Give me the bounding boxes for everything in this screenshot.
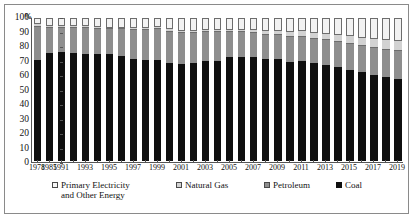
bar-segment-petroleum <box>82 28 89 54</box>
legend-petroleum[interactable]: Petroleum <box>264 180 310 190</box>
x-tick-label-2017: 2017 <box>365 164 381 172</box>
bar-segment-gas <box>394 40 401 52</box>
plot-wrapper <box>31 18 403 163</box>
bar-segment-coal <box>106 54 113 161</box>
x-tick-mark <box>385 160 386 163</box>
bar-1998[interactable] <box>142 18 149 161</box>
bar-1994[interactable] <box>94 18 101 161</box>
x-tick-label-1993: 1993 <box>77 164 93 172</box>
bar-segment-coal <box>322 65 329 161</box>
bar-2007[interactable] <box>250 18 257 161</box>
legend-swatch-icon <box>52 182 58 188</box>
bar-segment-petroleum <box>58 28 65 52</box>
bar-2010[interactable] <box>286 18 293 161</box>
bar-1991[interactable] <box>58 18 65 161</box>
y-tick-mark <box>60 134 63 135</box>
bar-1978[interactable] <box>34 18 41 161</box>
bar-segment-gas <box>334 34 341 42</box>
bar-segment-primary <box>226 18 233 29</box>
legend-coal[interactable]: Coal <box>336 180 362 190</box>
bar-1996[interactable] <box>118 18 125 161</box>
x-tick-label-2009: 2009 <box>269 164 285 172</box>
bar-2014[interactable] <box>334 18 341 161</box>
bar-2012[interactable] <box>310 18 317 161</box>
bar-segment-primary <box>58 18 65 25</box>
bar-segment-coal <box>178 64 185 161</box>
bar-2017[interactable] <box>370 18 377 161</box>
bar-2003[interactable] <box>202 18 209 161</box>
bar-2006[interactable] <box>238 18 245 161</box>
bar-segment-primary <box>106 18 113 27</box>
bar-1995[interactable] <box>106 18 113 161</box>
y-tick-mark <box>60 91 63 92</box>
y-tick-label: 10 <box>20 144 30 154</box>
bar-segment-gas <box>346 35 353 43</box>
bar-segment-petroleum <box>166 32 173 63</box>
bar-segment-coal <box>262 59 269 161</box>
legend-natural-gas[interactable]: Natural Gas <box>176 180 228 190</box>
bar-segment-coal <box>154 60 161 161</box>
bar-segment-coal <box>286 62 293 161</box>
bar-segment-coal <box>190 63 197 161</box>
bar-segment-petroleum <box>310 39 317 63</box>
bar-segment-coal <box>34 60 41 161</box>
bar-1992[interactable] <box>70 18 77 161</box>
x-tick-label-2001: 2001 <box>173 164 189 172</box>
bar-2018[interactable] <box>382 18 389 161</box>
legend-swatch-icon <box>176 182 182 188</box>
legend-label: Primary Electricity and Other Energy <box>61 180 130 200</box>
bar-segment-coal <box>130 59 137 161</box>
bar-segment-coal <box>250 57 257 161</box>
bar-segment-primary <box>202 18 209 29</box>
bar-segment-coal <box>346 70 353 161</box>
y-tick-mark <box>60 18 63 19</box>
bar-segment-primary <box>70 18 77 25</box>
bar-1999[interactable] <box>154 18 161 161</box>
bar-2009[interactable] <box>274 18 281 161</box>
bar-2011[interactable] <box>298 18 305 161</box>
bar-segment-primary <box>382 18 389 39</box>
y-tick-label: 30 <box>20 115 30 125</box>
x-tick-label-2013: 2013 <box>317 164 333 172</box>
bar-2015[interactable] <box>346 18 353 161</box>
bar-segment-primary <box>118 18 125 27</box>
y-tick-label: 90 <box>20 28 30 38</box>
chart-legend: Primary Electricity and Other EnergyNatu… <box>6 180 403 208</box>
legend-primary-electricity[interactable]: Primary Electricity and Other Energy <box>52 180 130 200</box>
y-tick-mark <box>60 33 63 34</box>
bar-2005[interactable] <box>226 18 233 161</box>
x-tick-mark <box>145 160 146 163</box>
bar-2004[interactable] <box>214 18 221 161</box>
x-tick-mark <box>169 160 170 163</box>
bar-segment-coal <box>46 53 53 161</box>
bar-segment-petroleum <box>262 35 269 59</box>
bar-2002[interactable] <box>190 18 197 161</box>
bar-2016[interactable] <box>358 18 365 161</box>
bar-segment-gas <box>298 30 305 37</box>
bar-segment-coal <box>70 53 77 161</box>
x-tick-mark <box>361 160 362 163</box>
bar-segment-coal <box>118 56 125 161</box>
bar-2008[interactable] <box>262 18 269 161</box>
bar-2001[interactable] <box>178 18 185 161</box>
bar-1985[interactable] <box>46 18 53 161</box>
x-tick-label-2003: 2003 <box>197 164 213 172</box>
bar-segment-petroleum <box>106 29 113 54</box>
bar-2000[interactable] <box>166 18 173 161</box>
y-tick-label: 50 <box>20 86 30 96</box>
bar-2019[interactable] <box>394 18 401 161</box>
bar-segment-coal <box>310 63 317 161</box>
bar-segment-petroleum <box>322 40 329 64</box>
x-axis: 1978198519911993199519971999200120032005… <box>31 164 403 178</box>
bar-1993[interactable] <box>82 18 89 161</box>
bar-segment-coal <box>94 54 101 161</box>
bar-segment-gas <box>370 38 377 48</box>
bar-1997[interactable] <box>130 18 137 161</box>
x-tick-label-1999: 1999 <box>149 164 165 172</box>
bar-group <box>33 18 403 161</box>
y-tick-label: 80 <box>20 42 30 52</box>
bar-2013[interactable] <box>322 18 329 161</box>
bar-segment-primary <box>322 18 329 33</box>
bar-segment-primary <box>334 18 341 34</box>
bar-segment-primary <box>262 18 269 30</box>
